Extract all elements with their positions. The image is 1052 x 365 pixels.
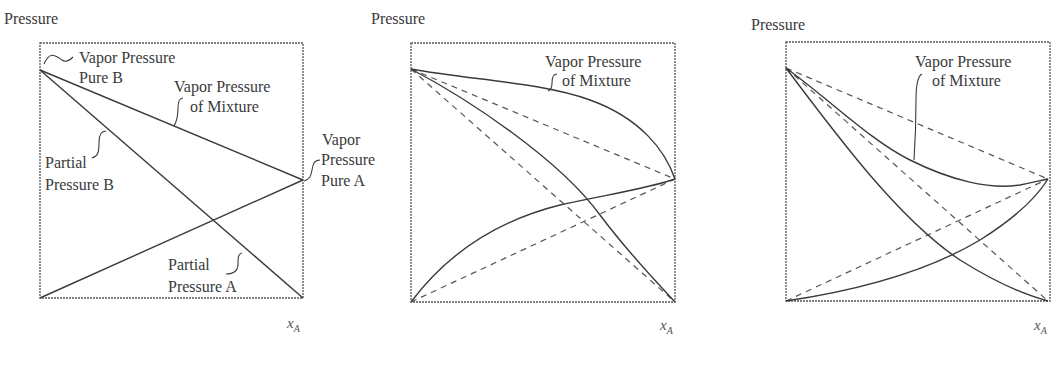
label-partial-a-line2: Pressure A	[168, 278, 237, 295]
y-axis-label: Pressure	[4, 10, 58, 27]
label-vp-pure-a-line1: Vapor	[322, 131, 361, 149]
leader-vp-pure-b	[44, 55, 73, 64]
leader-partial-a	[226, 253, 242, 274]
x-axis-label: xA	[1033, 317, 1048, 336]
label-vp-pure-a-line3: Pure A	[321, 172, 365, 189]
panel-positive-deviation: Pressure Vapor Pressure of Mixture xA	[371, 10, 675, 336]
label-vp-pure-b-line1: Vapor Pressure	[79, 49, 175, 67]
ideal-partial-b-dashed-line	[786, 68, 1048, 301]
leader-vp-mixture	[174, 98, 183, 126]
label-vp-pure-a-line2: Pressure	[321, 151, 375, 168]
label-vp-mixture-line1: Vapor Pressure	[545, 53, 641, 71]
y-axis-label: Pressure	[751, 16, 805, 33]
x-axis-label: xA	[286, 315, 301, 334]
x-axis-label: xA	[659, 317, 674, 336]
y-axis-label: Pressure	[371, 10, 425, 27]
ideal-partial-a-dashed-line	[411, 179, 675, 302]
label-vp-mixture-line1: Vapor Pressure	[174, 78, 270, 96]
raoult-law-diagrams: Pressure Vapor Pressure Pure B Vapor Pre…	[0, 0, 1052, 365]
panel-negative-deviation: Pressure Vapor Pressure of Mixture xA	[751, 16, 1050, 336]
ideal-partial-a-dashed-line	[786, 179, 1048, 301]
plot-frame	[411, 43, 675, 302]
label-partial-a-line1: Partial	[168, 256, 210, 273]
leader-vp-pure-a	[304, 160, 320, 181]
label-partial-b-line2: Pressure B	[45, 176, 114, 193]
leader-vp-mixture	[914, 74, 922, 160]
label-vp-pure-b-line2: Pure B	[79, 69, 123, 86]
label-vp-mixture-line2: of Mixture	[932, 72, 1001, 89]
label-vp-mixture-line2: of Mixture	[562, 72, 631, 89]
panel-ideal: Pressure Vapor Pressure Pure B Vapor Pre…	[4, 10, 375, 334]
label-vp-mixture-line1: Vapor Pressure	[915, 53, 1011, 71]
label-vp-mixture-line2: of Mixture	[190, 98, 259, 115]
label-partial-b-line1: Partial	[45, 154, 87, 171]
leader-partial-b	[92, 131, 106, 158]
ideal-partial-b-dashed-line	[411, 69, 675, 302]
